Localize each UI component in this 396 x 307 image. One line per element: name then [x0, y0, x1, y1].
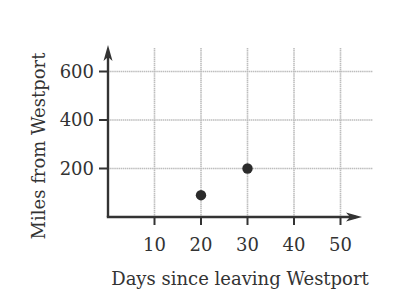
x-tick-label: 20	[190, 234, 213, 255]
y-tick-label: 400	[60, 109, 94, 130]
x-tick-label: 50	[329, 234, 352, 255]
x-tick-label: 10	[143, 234, 166, 255]
tick-marks	[99, 72, 341, 226]
x-tick-label: 30	[236, 234, 259, 255]
x-tick-labels: 1020304050	[143, 234, 352, 255]
x-tick-label: 40	[283, 234, 306, 255]
y-tick-label: 200	[60, 158, 94, 179]
x-axis-title: Days since leaving Westport	[111, 268, 369, 289]
data-point	[242, 163, 252, 173]
y-axis-title: Miles from Westport	[28, 52, 49, 240]
data-point	[196, 190, 206, 200]
y-tick-label: 600	[60, 61, 94, 82]
grid-lines	[108, 48, 373, 217]
y-tick-labels: 200400600	[60, 61, 94, 179]
scatter-chart: 1020304050 200400600 Days since leaving …	[0, 0, 396, 307]
